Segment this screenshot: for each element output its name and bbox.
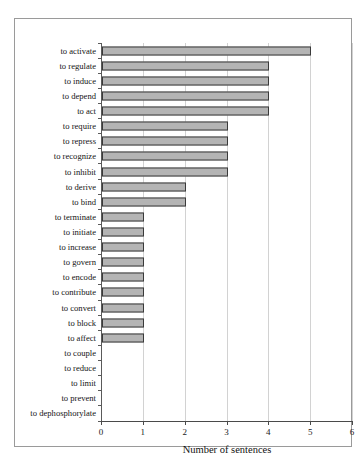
category-label: to terminate	[55, 212, 96, 222]
bar-row: to act	[101, 103, 352, 118]
category-label: to increase	[59, 242, 96, 252]
bar-row: to block	[101, 315, 352, 330]
category-label: to recognize	[54, 151, 96, 161]
bar-row: to depend	[101, 88, 352, 103]
bar	[102, 76, 269, 85]
category-label: to initiate	[63, 227, 96, 237]
y-tick	[98, 239, 101, 240]
gridline-x-6	[352, 43, 353, 421]
category-label: to inhibit	[65, 167, 96, 177]
plot-area: to activateto regulateto induceto depend…	[101, 43, 352, 421]
x-tick-1	[143, 421, 144, 425]
bar	[102, 303, 144, 312]
y-tick	[98, 43, 101, 44]
category-label: to require	[63, 121, 96, 131]
bar-row: to bind	[101, 194, 352, 209]
x-tick-label-5: 5	[295, 426, 325, 438]
bar	[102, 152, 228, 161]
category-label: to convert	[61, 303, 96, 313]
y-tick	[98, 254, 101, 255]
bar-row: to reduce	[101, 361, 352, 376]
category-label: to couple	[64, 348, 96, 358]
x-tick-3	[227, 421, 228, 425]
y-tick	[98, 315, 101, 316]
y-tick	[98, 118, 101, 119]
bar-row: to dephosphorylate	[101, 406, 352, 421]
y-tick	[98, 284, 101, 285]
category-label: to depend	[62, 91, 96, 101]
bar	[102, 333, 144, 342]
x-tick-0	[101, 421, 102, 425]
bar-row: to prevent	[101, 391, 352, 406]
category-label: to activate	[60, 46, 96, 56]
bar	[102, 46, 311, 55]
x-tick-2	[185, 421, 186, 425]
category-label: to induce	[64, 76, 96, 86]
y-tick	[98, 209, 101, 210]
category-label: to prevent	[61, 393, 96, 403]
bar-row: to recognize	[101, 149, 352, 164]
category-label: to dephosphorylate	[30, 408, 96, 418]
bar	[102, 258, 144, 267]
bar	[102, 288, 144, 297]
bar	[102, 122, 228, 131]
bar-row: to affect	[101, 330, 352, 345]
figure-frame: to activateto regulateto induceto depend…	[14, 18, 352, 447]
bar-row: to terminate	[101, 209, 352, 224]
category-label: to act	[77, 106, 96, 116]
bar	[102, 273, 144, 282]
y-tick	[98, 148, 101, 149]
y-tick	[98, 375, 101, 376]
category-label: to reduce	[64, 363, 96, 373]
bar-row: to couple	[101, 345, 352, 360]
bar	[102, 167, 228, 176]
bar-row: to increase	[101, 240, 352, 255]
category-label: to govern	[63, 257, 96, 267]
category-label: to repress	[63, 136, 96, 146]
x-tick-label-6: 6	[337, 426, 364, 438]
bar	[102, 212, 144, 221]
bar-row: to limit	[101, 376, 352, 391]
x-tick-label-4: 4	[253, 426, 283, 438]
y-tick	[98, 133, 101, 134]
y-tick	[98, 163, 101, 164]
bar	[102, 318, 144, 327]
category-label: to contribute	[52, 287, 96, 297]
x-tick-5	[310, 421, 311, 425]
y-tick	[98, 73, 101, 74]
category-label: to limit	[71, 378, 96, 388]
bar	[102, 197, 186, 206]
category-label: to bind	[72, 197, 96, 207]
bar-row: to initiate	[101, 224, 352, 239]
bar	[102, 243, 144, 252]
bar-row: to regulate	[101, 58, 352, 73]
bar-row: to contribute	[101, 285, 352, 300]
category-label: to block	[68, 318, 96, 328]
y-tick	[98, 360, 101, 361]
category-label: to derive	[66, 182, 96, 192]
y-tick	[98, 179, 101, 180]
y-tick	[98, 88, 101, 89]
category-label: to encode	[63, 272, 96, 282]
bar-row: to encode	[101, 270, 352, 285]
x-axis-title: Number of sentences	[101, 444, 353, 455]
x-tick-label-0: 0	[86, 426, 116, 438]
category-label: to regulate	[59, 61, 96, 71]
bar	[102, 61, 269, 70]
y-tick	[98, 58, 101, 59]
y-tick	[98, 345, 101, 346]
bar-row: to induce	[101, 73, 352, 88]
bar	[102, 91, 269, 100]
bar-row: to require	[101, 119, 352, 134]
bar-row: to repress	[101, 134, 352, 149]
y-tick	[98, 330, 101, 331]
y-tick	[98, 224, 101, 225]
bar-row: to govern	[101, 255, 352, 270]
x-tick-label-3: 3	[212, 426, 242, 438]
x-tick-label-1: 1	[128, 426, 158, 438]
y-tick	[98, 103, 101, 104]
y-tick	[98, 269, 101, 270]
bar	[102, 137, 228, 146]
y-tick	[98, 300, 101, 301]
x-tick-6	[352, 421, 353, 425]
